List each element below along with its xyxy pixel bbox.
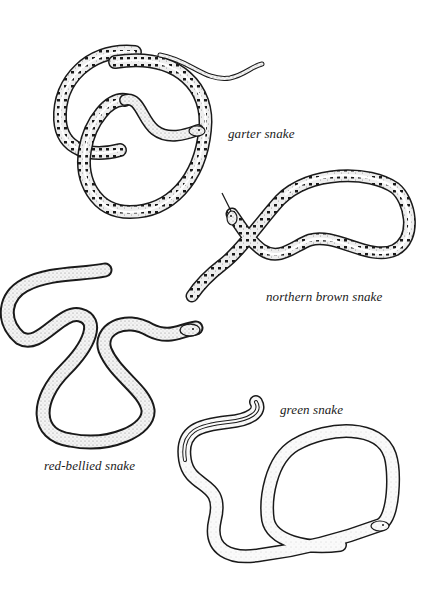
northern-brown-head [227,211,237,225]
red-bellied-snake-label: red-bellied snake [44,458,135,474]
northern-brown-snake-label: northern brown snake [266,289,382,305]
garter-snake-label: garter snake [228,126,295,142]
green-snake-label: green snake [280,402,343,418]
red-bellied-snake-drawing [7,270,200,442]
green-snake-head [371,521,389,531]
green-snake-drawing [184,402,393,556]
snake-illustration-plate: garter snake northern brown snake red-be… [0,0,433,607]
red-bellied-head [180,324,200,336]
northern-brown-snake-drawing [192,175,409,296]
garter-head [189,126,205,136]
